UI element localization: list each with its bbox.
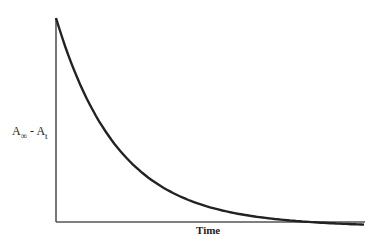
y-axis-label: A∞ - At (12, 124, 48, 141)
decay-curve (56, 18, 364, 225)
x-axis-label: Time (196, 224, 220, 236)
decay-chart (0, 0, 391, 244)
